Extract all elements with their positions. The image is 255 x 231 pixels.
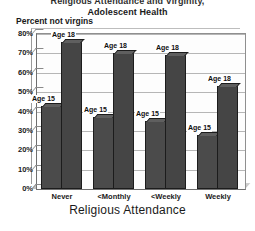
chart-container: Religious Attendance and Virginity, Adol…	[0, 0, 255, 231]
bar-age18-monthly[interactable]	[113, 53, 134, 189]
x-tick-label: Never	[36, 192, 88, 201]
bar-top-face	[62, 39, 85, 43]
x-tick-label: Weekly	[192, 192, 244, 201]
x-tick-label: <Weekly	[140, 192, 192, 201]
x-axis-label: Religious Attendance	[0, 203, 255, 217]
bar-age15-weekly[interactable]	[197, 135, 218, 189]
y-tick-label: 30%	[1, 126, 33, 135]
bar-age18-weekly[interactable]	[217, 86, 238, 189]
y-tick-label: 70%	[1, 48, 33, 57]
bar-age18-weekly[interactable]	[165, 55, 186, 189]
bar-age15-never[interactable]	[41, 106, 62, 189]
plot-area-wrapper: 0%10%20%30%40%50%60%70%80% Age 15Age 18A…	[0, 0, 255, 200]
y-tick-label: 10%	[1, 165, 33, 174]
bar-age18-never[interactable]	[61, 42, 82, 189]
x-tick-label: <Monthly	[88, 192, 140, 201]
bar-top-face	[114, 50, 137, 54]
bar-age15-weekly[interactable]	[145, 121, 166, 189]
y-tick-label: 0%	[1, 184, 33, 193]
y-tick-label: 60%	[1, 68, 33, 77]
y-tick-label: 20%	[1, 145, 33, 154]
bar-age15-monthly[interactable]	[93, 117, 114, 189]
y-tick-label: 40%	[1, 107, 33, 116]
gridline	[37, 34, 245, 35]
x-axis-ticks: Never<Monthly<WeeklyWeekly	[36, 192, 244, 201]
bar-top-face	[166, 52, 189, 56]
y-tick-label: 50%	[1, 87, 33, 96]
y-tick-label: 80%	[1, 29, 33, 38]
gridline	[37, 189, 245, 190]
bar-top-face	[218, 83, 241, 87]
